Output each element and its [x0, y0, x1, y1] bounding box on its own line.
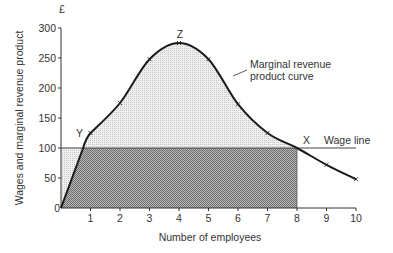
x-tick-label: 9: [324, 212, 330, 224]
x-tick-label: 5: [206, 212, 212, 224]
y-tick-label: 200: [38, 82, 56, 94]
y-tick-label: 250: [38, 52, 56, 64]
x-tick-label: 6: [235, 212, 241, 224]
y-unit-label: £: [59, 3, 65, 15]
mrp-chart: 05010015020025030012345678910 £ Wages an…: [0, 0, 393, 253]
x-tick-label: 8: [294, 212, 300, 224]
annotation-z: Z: [177, 28, 184, 40]
y-tick-label: 150: [38, 112, 56, 124]
wage-bill-shaded-region: [61, 148, 297, 208]
x-tick-label: 1: [88, 212, 94, 224]
x-tick-label: 10: [350, 212, 362, 224]
x-tick-label: 4: [176, 212, 182, 224]
x-tick-label: 3: [147, 212, 153, 224]
y-tick-label: 300: [38, 22, 56, 34]
mrp-label-line1: Marginal revenue: [250, 58, 331, 70]
x-tick-label: 2: [117, 212, 123, 224]
x-axis-title: Number of employees: [159, 231, 262, 243]
y-tick-label: 0: [54, 202, 60, 214]
mrp-label-leader: [233, 70, 247, 76]
wage-line-label: Wage line: [324, 134, 370, 146]
mrp-label-line2: product curve: [250, 70, 314, 82]
annotation-y: Y: [76, 127, 83, 139]
y-axis-title: Wages and marginal revenue product: [13, 31, 25, 206]
y-tick-label: 50: [44, 172, 56, 184]
x-tick-label: 7: [265, 212, 271, 224]
annotation-x: X: [303, 134, 310, 146]
y-tick-label: 100: [38, 142, 56, 154]
